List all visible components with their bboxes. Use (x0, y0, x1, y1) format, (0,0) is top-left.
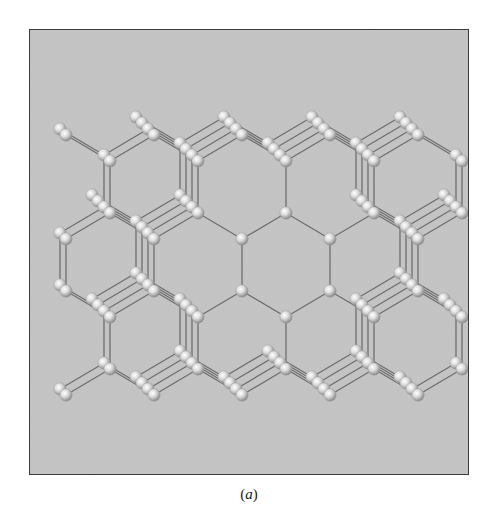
atom (148, 285, 160, 297)
atom (236, 233, 248, 245)
lattice-diagram (30, 30, 469, 475)
atom (236, 389, 248, 401)
atom (104, 207, 116, 219)
atom (148, 233, 160, 245)
atom (456, 155, 468, 167)
atom (104, 155, 116, 167)
atom (60, 233, 72, 245)
atom (192, 363, 204, 375)
atom (148, 389, 160, 401)
atom (236, 129, 248, 141)
atom (456, 311, 468, 323)
atom (236, 285, 248, 297)
atom (192, 311, 204, 323)
caption-label: a (245, 486, 253, 502)
atom (324, 389, 336, 401)
atom (456, 207, 468, 219)
atom (104, 363, 116, 375)
atom (412, 389, 424, 401)
atom (368, 155, 380, 167)
crystal-structure-panel (29, 29, 469, 475)
atom (368, 207, 380, 219)
atom (412, 233, 424, 245)
figure-caption: (a) (0, 486, 498, 503)
atom (104, 311, 116, 323)
atom (148, 129, 160, 141)
atom (324, 129, 336, 141)
atom (280, 311, 292, 323)
atom (60, 389, 72, 401)
atom (412, 129, 424, 141)
atom (412, 285, 424, 297)
atom (60, 129, 72, 141)
atom (368, 363, 380, 375)
atom (456, 363, 468, 375)
atom (192, 207, 204, 219)
atom (368, 311, 380, 323)
atom (60, 285, 72, 297)
atom (192, 155, 204, 167)
atom (324, 285, 336, 297)
atom (280, 155, 292, 167)
atom (324, 233, 336, 245)
atom (280, 363, 292, 375)
atom (280, 207, 292, 219)
